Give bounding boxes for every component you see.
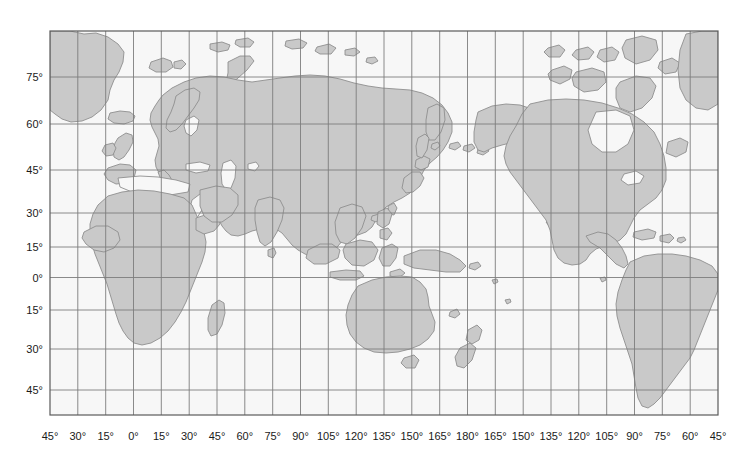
x-tick-label: 30° [181, 430, 198, 442]
y-tick-label: 45° [26, 384, 43, 396]
x-tick-label: 150° [400, 430, 423, 442]
y-tick-label: 0° [32, 272, 43, 284]
x-tick-label: 45° [209, 430, 226, 442]
x-tick-label: 120° [567, 430, 590, 442]
y-tick-label: 30° [26, 207, 43, 219]
x-tick-label: 60° [236, 430, 253, 442]
x-tick-label: 90° [626, 430, 643, 442]
x-tick-label: 135° [373, 430, 396, 442]
x-tick-label: 165° [484, 430, 507, 442]
world-map-figure: 45° 30° 15° 0° 15° 30° 45° 60° 75° 90° 1… [0, 0, 749, 468]
y-tick-label: 15° [26, 241, 43, 253]
x-tick-label: 165° [428, 430, 451, 442]
land-franz-josef [210, 42, 230, 52]
x-tick-label: 135° [540, 430, 563, 442]
x-tick-label: 105° [317, 430, 340, 442]
x-tick-label: 150° [512, 430, 535, 442]
x-tick-label: 15° [97, 430, 114, 442]
x-tick-label: 45° [710, 430, 727, 442]
land-java [330, 270, 364, 280]
world-map-canvas: 45° 30° 15° 0° 15° 30° 45° 60° 75° 90° 1… [0, 0, 749, 468]
land-iceland [108, 111, 135, 124]
x-tick-label: 30° [69, 430, 86, 442]
x-tick-label: 75° [264, 430, 281, 442]
y-tick-label: 45° [26, 164, 43, 176]
y-tick-label: 15° [26, 304, 43, 316]
x-tick-label: 45° [42, 430, 59, 442]
x-tick-label: 15° [153, 430, 170, 442]
x-tick-label: 120° [345, 430, 368, 442]
land-australia [346, 276, 435, 353]
x-tick-label: 90° [292, 430, 309, 442]
x-tick-label: 0° [128, 430, 139, 442]
x-tick-label: 75° [654, 430, 671, 442]
x-tick-label: 105° [595, 430, 618, 442]
x-tick-label: 180° [456, 430, 479, 442]
y-tick-label: 75° [26, 71, 43, 83]
x-tick-label: 60° [682, 430, 699, 442]
y-tick-label: 30° [26, 343, 43, 355]
y-tick-label: 60° [26, 118, 43, 130]
